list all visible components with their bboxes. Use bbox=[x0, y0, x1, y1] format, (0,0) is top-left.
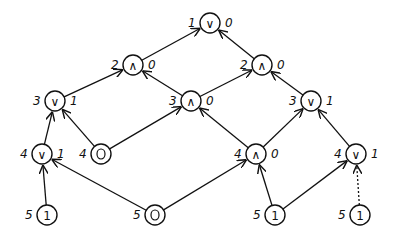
value-label: 1 bbox=[371, 147, 379, 161]
edge-n3b-to-n2b bbox=[200, 70, 252, 97]
and-gate-icon: ∧ bbox=[258, 59, 267, 73]
leaf-value: 1 bbox=[43, 209, 51, 223]
edge-n5b-to-n4a bbox=[52, 159, 147, 210]
depth-label: 5 bbox=[253, 208, 261, 222]
leaf-node-n4b: 4 bbox=[79, 144, 111, 164]
value-label: 0 bbox=[148, 58, 156, 72]
or-gate-icon: ∨ bbox=[38, 148, 47, 162]
node-circle bbox=[91, 144, 111, 164]
boolean-circuit-diagram: ∨10∧20∧20∨31∧30∨31∨414∧40∨411551515 bbox=[0, 0, 398, 245]
leaf-node-n5a: 15 bbox=[25, 205, 57, 225]
value-label: 1 bbox=[326, 94, 334, 108]
edge-n3b-to-n2a bbox=[142, 71, 182, 96]
edges bbox=[43, 28, 359, 210]
nodes: ∨10∧20∧20∨31∧30∨31∨414∧40∨411551515 bbox=[20, 13, 379, 225]
gate-node-n2b: ∧20 bbox=[240, 55, 285, 75]
depth-label: 1 bbox=[188, 16, 196, 30]
value-label: 0 bbox=[206, 94, 214, 108]
depth-label: 3 bbox=[33, 94, 41, 108]
edge-n4d-to-n3c bbox=[318, 109, 349, 146]
depth-label: 5 bbox=[133, 208, 141, 222]
value-label: 1 bbox=[57, 147, 65, 161]
edge-n4c-to-n3b bbox=[200, 108, 249, 148]
edge-n4c-to-n3c bbox=[263, 109, 303, 147]
edge-n5a-to-n4a bbox=[43, 165, 46, 205]
edge-n4b-to-n3a bbox=[62, 109, 94, 146]
edge-n4a-to-n3a bbox=[44, 112, 52, 145]
or-gate-icon: ∨ bbox=[206, 17, 215, 31]
leaf-node-n5d: 15 bbox=[338, 205, 370, 225]
depth-label: 3 bbox=[289, 94, 297, 108]
edge-n3a-to-n2a bbox=[64, 70, 123, 97]
edge-n5b-to-n4c bbox=[164, 160, 247, 210]
edge-n5c-to-n4d bbox=[283, 161, 347, 209]
gate-node-n3a: ∨31 bbox=[33, 91, 78, 111]
and-gate-icon: ∧ bbox=[129, 59, 138, 73]
depth-label: 3 bbox=[169, 94, 177, 108]
and-gate-icon: ∧ bbox=[187, 95, 196, 109]
value-label: 1 bbox=[70, 94, 78, 108]
depth-label: 4 bbox=[79, 147, 87, 161]
or-gate-icon: ∨ bbox=[352, 148, 361, 162]
depth-label: 4 bbox=[234, 147, 242, 161]
and-gate-icon: ∧ bbox=[252, 148, 261, 162]
gate-node-n4a: ∨41 bbox=[20, 144, 65, 164]
edge-n3c-to-n2b bbox=[271, 72, 303, 96]
edge-n2b-to-n1 bbox=[219, 30, 255, 59]
edge-n4b-to-n3b bbox=[110, 107, 182, 149]
leaf-value: 1 bbox=[271, 209, 279, 223]
node-circle bbox=[145, 205, 165, 225]
depth-label: 4 bbox=[334, 147, 342, 161]
edge-n5d-to-n4d bbox=[357, 165, 360, 205]
value-label: 0 bbox=[271, 147, 279, 161]
gate-node-n4c: ∧40 bbox=[234, 144, 279, 164]
depth-label: 4 bbox=[20, 147, 28, 161]
value-label: 0 bbox=[225, 16, 233, 30]
leaf-node-n5b: 5 bbox=[133, 205, 165, 225]
depth-label: 2 bbox=[240, 58, 248, 72]
depth-label: 5 bbox=[25, 208, 33, 222]
or-gate-icon: ∨ bbox=[307, 95, 316, 109]
gate-node-n4d: ∨41 bbox=[334, 144, 379, 164]
depth-label: 2 bbox=[111, 58, 119, 72]
leaf-node-n5c: 15 bbox=[253, 205, 285, 225]
edge-n5c-to-n4c bbox=[259, 165, 272, 206]
value-label: 0 bbox=[277, 58, 285, 72]
or-gate-icon: ∨ bbox=[51, 95, 60, 109]
edge-n2a-to-n1 bbox=[142, 28, 201, 60]
leaf-value: 1 bbox=[356, 209, 364, 223]
gate-node-n3c: ∨31 bbox=[289, 91, 334, 111]
depth-label: 5 bbox=[338, 208, 346, 222]
gate-node-n3b: ∧30 bbox=[169, 91, 214, 111]
gate-node-n1: ∨10 bbox=[188, 13, 233, 33]
